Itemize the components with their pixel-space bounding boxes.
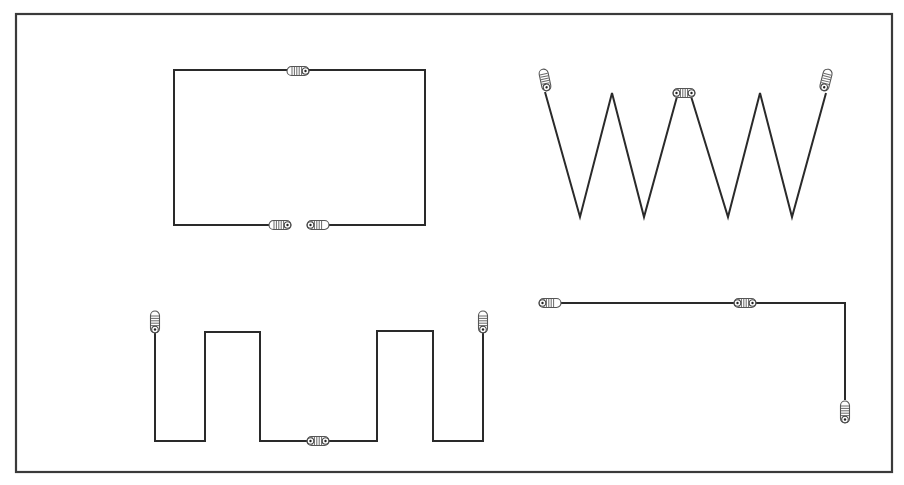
connector-icon bbox=[539, 299, 561, 308]
connector-icon bbox=[734, 299, 756, 308]
outer-frame bbox=[16, 14, 892, 472]
connector-icon bbox=[269, 221, 291, 230]
connector-icon bbox=[479, 311, 488, 333]
connector-icon bbox=[307, 437, 329, 446]
connector-icon bbox=[538, 68, 551, 91]
zigzag-wave bbox=[538, 68, 833, 217]
wire-line bbox=[552, 303, 845, 400]
wire-line bbox=[174, 70, 425, 225]
rectangle-loop bbox=[174, 67, 425, 230]
square-wave bbox=[151, 311, 488, 446]
connector-icon bbox=[819, 68, 833, 92]
connector-icon bbox=[673, 89, 695, 98]
diagram-canvas bbox=[0, 0, 904, 485]
connector-icon bbox=[287, 67, 309, 76]
shapes-layer bbox=[151, 67, 850, 446]
l-shape bbox=[539, 299, 850, 424]
wire-line bbox=[545, 92, 678, 217]
wire-line bbox=[690, 93, 826, 217]
wire-line bbox=[155, 331, 483, 441]
connector-icon bbox=[841, 401, 850, 423]
connector-icon bbox=[151, 311, 160, 333]
connector-icon bbox=[307, 221, 329, 230]
